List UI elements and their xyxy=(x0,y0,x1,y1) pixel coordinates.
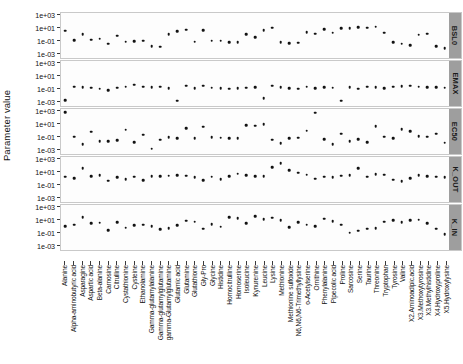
x-axis-tick-mark xyxy=(342,261,343,265)
data-point xyxy=(409,44,412,47)
x-axis-tick-label: Glutamic acid xyxy=(174,265,181,303)
data-point xyxy=(392,219,395,222)
data-point xyxy=(64,99,67,102)
data-point xyxy=(236,172,239,175)
x-axis: AlanineAlpha-aminobutyric acidAsparagine… xyxy=(60,261,450,364)
data-point xyxy=(288,169,291,172)
data-point xyxy=(133,224,136,227)
data-point xyxy=(305,173,308,176)
x-axis-tick-label: Homoserine xyxy=(234,265,241,299)
data-point xyxy=(280,41,283,44)
data-point xyxy=(357,167,360,170)
data-point xyxy=(254,175,257,178)
data-point xyxy=(409,177,412,180)
data-point xyxy=(400,85,403,88)
data-point xyxy=(142,133,145,136)
data-point xyxy=(357,87,360,90)
data-point xyxy=(236,137,239,140)
x-axis-tick-mark xyxy=(246,261,247,265)
data-point xyxy=(185,220,188,223)
data-point xyxy=(142,223,145,226)
data-point xyxy=(271,139,274,142)
data-point xyxy=(323,217,326,220)
x-axis-tick-mark xyxy=(151,261,152,265)
x-axis-tick-label: Kynurenine xyxy=(252,265,259,297)
data-point xyxy=(142,179,145,182)
data-point xyxy=(409,219,412,222)
data-point xyxy=(245,33,248,36)
data-point xyxy=(133,175,136,178)
facet-strip-text: EMAX xyxy=(451,72,460,94)
data-point xyxy=(262,97,265,100)
x-axis-tick-label: Pipecolic acid xyxy=(330,265,337,303)
data-point xyxy=(159,45,162,48)
data-point xyxy=(116,34,119,37)
x-axis-tick-label: Taurine xyxy=(364,265,371,286)
x-axis-tick-label: o-Acetylserine xyxy=(304,265,311,305)
data-point xyxy=(236,217,239,220)
data-point xyxy=(107,229,110,232)
data-point xyxy=(99,221,102,224)
facet-strip-label-ec50: EC50 xyxy=(449,108,462,155)
x-axis-tick-label: Valine xyxy=(399,265,406,282)
data-point xyxy=(167,227,170,230)
data-point xyxy=(124,178,127,181)
x-axis-tick-label: Histidine xyxy=(217,265,224,289)
data-point xyxy=(262,175,265,178)
x-axis-tick-label: Glycine xyxy=(208,265,215,286)
data-point xyxy=(340,99,343,102)
data-point xyxy=(81,216,84,219)
y-axis-tick-label: 1e-03 xyxy=(37,145,55,154)
x-axis-tick-label: Alanine xyxy=(61,265,68,286)
data-point xyxy=(374,25,377,28)
data-point xyxy=(73,223,76,226)
data-point xyxy=(133,83,136,86)
data-point xyxy=(81,33,84,36)
data-point xyxy=(211,223,214,226)
data-point xyxy=(228,41,231,44)
data-point xyxy=(159,139,162,142)
data-point xyxy=(314,177,317,180)
x-axis-tick-mark xyxy=(376,261,377,265)
data-point xyxy=(323,86,326,89)
data-point xyxy=(159,228,162,231)
data-point xyxy=(99,87,102,90)
data-point xyxy=(228,216,231,219)
data-point xyxy=(357,229,360,232)
data-point xyxy=(418,33,421,36)
data-point xyxy=(288,137,291,140)
x-axis-tick-label: Cystathionine xyxy=(121,265,128,303)
data-point xyxy=(150,225,153,228)
data-point xyxy=(349,140,352,143)
data-point xyxy=(193,176,196,179)
data-point xyxy=(297,221,300,224)
data-point xyxy=(323,28,326,31)
x-axis-tick-label: Sarcosine xyxy=(347,265,354,293)
data-point xyxy=(271,166,274,169)
data-point xyxy=(435,176,438,179)
data-point xyxy=(280,142,283,145)
data-point xyxy=(219,225,222,228)
data-point xyxy=(124,226,127,229)
data-point xyxy=(150,45,153,48)
data-point xyxy=(357,138,360,141)
data-point xyxy=(331,143,334,146)
data-point xyxy=(297,136,300,139)
data-point xyxy=(228,175,231,178)
facet-strip-label-bsl0: BSL0 xyxy=(449,12,462,59)
x-axis-tick-mark xyxy=(134,261,135,265)
data-point xyxy=(81,86,84,89)
y-axis-tick-label: 1e+01 xyxy=(35,71,55,80)
y-axis-tick-label: 1e+03 xyxy=(35,58,55,67)
data-point xyxy=(193,87,196,90)
data-point xyxy=(245,124,248,127)
x-axis-tick-label: Tyrosine xyxy=(390,265,397,289)
data-point xyxy=(142,85,145,88)
data-point xyxy=(159,85,162,88)
data-point xyxy=(305,31,308,34)
data-point xyxy=(116,221,119,224)
y-axis-tick-label: 1e-01 xyxy=(37,84,55,93)
data-point xyxy=(366,141,369,144)
data-point xyxy=(245,174,248,177)
x-axis-tick-label: Phenylalanine xyxy=(321,265,328,304)
